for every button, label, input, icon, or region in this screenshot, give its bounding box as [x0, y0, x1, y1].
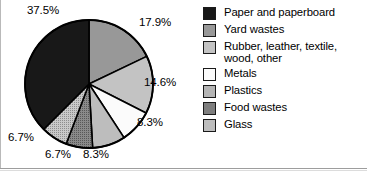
legend-label-paper-and-paperboard: Paper and paperboard — [224, 6, 335, 18]
pie-slice-group — [25, 20, 153, 148]
legend-label-plastics: Plastics — [224, 84, 262, 96]
pie-plot-area: 37.5% 17.9% 14.6% 8.3% 8.3% 6.7% 6.7% — [0, 0, 200, 168]
legend-label-yard-wastes: Yard wastes — [224, 23, 284, 35]
legend-label-food-wastes: Food wastes — [224, 101, 287, 113]
legend-item-rubber-leather-textile-wood-other: Rubber, leather, textile, wood, other — [203, 40, 365, 64]
pie-label-food-wastes: 6.7% — [45, 148, 71, 160]
legend-swatch-icon-yard-wastes — [203, 24, 216, 37]
pie-chart-figure: 37.5% 17.9% 14.6% 8.3% 8.3% 6.7% 6.7% Pa… — [0, 0, 367, 176]
legend-item-yard-wastes: Yard wastes — [203, 23, 365, 37]
pie-label-paper-and-paperboard: 37.5% — [27, 4, 59, 16]
legend-label-metals: Metals — [224, 67, 257, 79]
legend-item-glass: Glass — [203, 118, 365, 132]
legend-label-glass: Glass — [224, 118, 252, 130]
pie-label-plastics: 6.7% — [8, 131, 34, 143]
legend-item-paper-and-paperboard: Paper and paperboard — [203, 6, 365, 20]
legend-swatch-icon-plastics — [203, 85, 216, 98]
legend-swatch-icon-food-wastes — [203, 102, 216, 115]
legend-swatch-icon-rubber-leather-textile-wood-other — [203, 41, 216, 54]
pie-label-glass: 8.3% — [83, 148, 109, 160]
pie-label-rubber-leather-textile-wood-other: 14.6% — [144, 76, 176, 88]
legend-item-food-wastes: Food wastes — [203, 101, 365, 115]
legend-swatch-icon-paper-and-paperboard — [203, 7, 216, 20]
legend-swatch-icon-glass — [203, 119, 216, 132]
pie-label-yard-wastes: 17.9% — [139, 16, 171, 28]
legend-label-rubber-leather-textile-wood-other: Rubber, leather, textile, wood, other — [224, 40, 337, 64]
pie-label-metals: 8.3% — [137, 116, 163, 128]
figure-bottom-rule — [0, 168, 367, 169]
legend-swatch-icon-metals — [203, 68, 216, 81]
legend-item-metals: Metals — [203, 67, 365, 81]
chart-legend: Paper and paperboard Yard wastes Rubber,… — [203, 6, 365, 135]
figure-bottom-rule-shadow — [0, 170, 367, 171]
legend-item-plastics: Plastics — [203, 84, 365, 98]
